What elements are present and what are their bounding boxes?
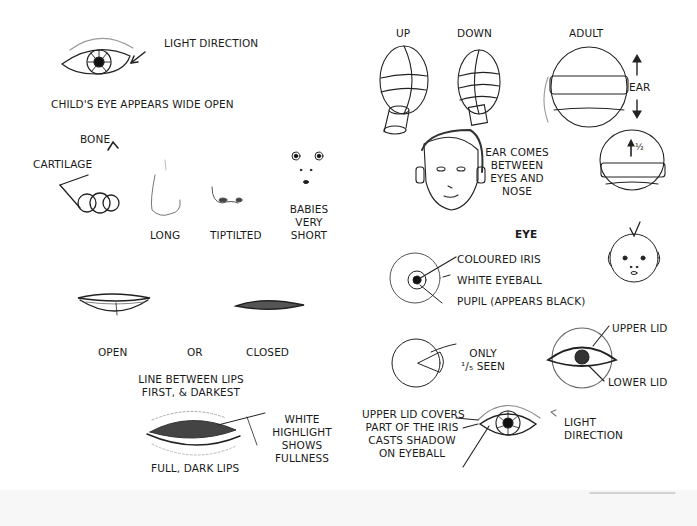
babies-nose-note: BABIES VERY SHORT [280,203,338,242]
or-label: OR [187,346,203,359]
tiptilted-nose-sketch [212,187,242,203]
full-dark-lips-sketch [147,411,265,455]
upper-lid-covers-note: UPPER LID COVERS PART OF THE IRIS CASTS … [362,408,462,460]
lower-lid-label: LOWER LID [608,376,667,389]
detailed-eye-sketch [456,405,556,467]
head-adult-sketch [544,47,641,127]
closed-lips-sketch [236,301,304,310]
closed-lips-label: CLOSED [246,346,289,359]
head-up-label: UP [396,27,410,40]
long-nose-label: LONG [150,229,180,242]
pupil-label: PUPIL (APPEARS BLACK) [457,295,585,308]
head-ear-ratio-sketch [600,130,665,190]
ear-placement-note: EAR COMES BETWEEN EYES AND NOSE [484,146,550,198]
head-adult-label: ADULT [569,27,603,40]
long-nose-sketch [151,160,180,215]
upper-lid-label: UPPER LID [612,322,668,335]
coloured-iris-label: COLOURED IRIS [457,253,541,266]
head-down-sketch [458,50,500,125]
full-dark-lips-label: FULL, DARK LIPS [151,462,239,475]
bone-label: BONE [80,133,110,146]
tiptilted-nose-label: TIPTILTED [210,229,262,242]
woman-face-sketch [416,130,485,210]
eyeball-diagram-sketch [390,253,456,303]
child-eye-sketch [62,38,145,74]
open-lips-label: OPEN [98,346,128,359]
cartilage-label: CARTILAGE [33,158,92,171]
white-eyeball-label: WHITE EYEBALL [457,274,542,287]
half-ratio-label: ½ [635,141,644,154]
side-eye-sketch [392,339,456,387]
sketch-artwork [0,0,697,526]
head-down-label: DOWN [457,27,492,40]
open-lips-sketch [78,294,150,315]
ear-label: EAR [629,81,650,94]
baby-head-sketch [608,222,660,282]
eye-light-direction-note: LIGHT DIRECTION [564,416,623,442]
light-direction-label: LIGHT DIRECTION [164,37,258,50]
only-fifth-seen-note: ONLY ¹/₅ SEEN [460,347,506,373]
line-between-lips-note: LINE BETWEEN LIPS FIRST, & DARKEST [136,373,246,399]
lids-eye-sketch [548,326,616,388]
eye-heading: EYE [515,228,537,241]
head-up-sketch [380,46,428,134]
baby-features-sketch [292,152,323,184]
nose-cartilage-sketch [60,142,119,213]
white-highlight-note: WHITE HIGHLIGHT SHOWS FULLNESS [270,413,334,465]
child-eye-caption: CHILD'S EYE APPEARS WIDE OPEN [51,98,234,111]
